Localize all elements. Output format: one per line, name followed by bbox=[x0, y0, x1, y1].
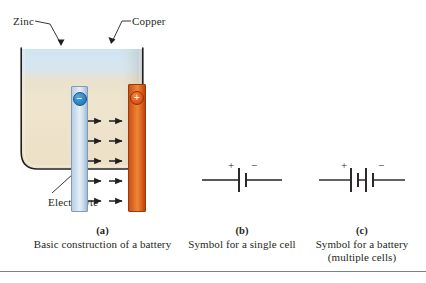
panel-c-tag: (c) bbox=[298, 224, 426, 238]
multi-cell-battery-symbol: + − bbox=[298, 158, 426, 198]
panel-b-tag: (b) bbox=[186, 224, 298, 238]
zinc-label: Zinc bbox=[13, 15, 34, 27]
panel-c-caption-line2: (multiple cells) bbox=[298, 251, 426, 265]
plus-sign: + bbox=[228, 159, 234, 171]
minus-sign: − bbox=[378, 159, 384, 171]
caption-panel-b: (b) Symbol for a single cell bbox=[186, 224, 298, 251]
minus-sign: − bbox=[251, 159, 257, 171]
battery-container: − + bbox=[18, 48, 146, 172]
panel-a-battery-construction: Zinc Copper Electrolyte bbox=[0, 0, 205, 262]
zinc-electrode: − bbox=[71, 86, 88, 212]
single-cell-symbol: + − bbox=[186, 158, 298, 198]
panel-a-tag: (a) bbox=[0, 224, 205, 238]
caption-panel-c: (c) Symbol for a battery (multiple cells… bbox=[298, 224, 426, 265]
copper-label: Copper bbox=[132, 15, 166, 27]
copper-electrode: + bbox=[128, 84, 146, 212]
panel-b-caption-text: Symbol for a single cell bbox=[186, 238, 298, 252]
negative-terminal-icon: − bbox=[73, 92, 87, 106]
panel-c-caption-line1: Symbol for a battery bbox=[298, 238, 426, 252]
positive-terminal-icon: + bbox=[130, 91, 144, 105]
ion-flow-arrows bbox=[88, 118, 128, 206]
negative-sign: − bbox=[77, 94, 83, 104]
plus-sign: + bbox=[341, 159, 347, 171]
figure-root: Zinc Copper Electrolyte bbox=[0, 0, 426, 283]
positive-sign: + bbox=[134, 93, 140, 103]
panel-a-caption-text: Basic construction of a battery bbox=[0, 238, 205, 252]
panel-c-battery-symbol: + − (c) Symbol for a battery (multiple c… bbox=[298, 0, 426, 262]
caption-panel-a: (a) Basic construction of a battery bbox=[0, 224, 205, 251]
footer-rule bbox=[0, 271, 426, 272]
panel-b-single-cell-symbol: + − (b) Symbol for a single cell bbox=[186, 0, 298, 262]
